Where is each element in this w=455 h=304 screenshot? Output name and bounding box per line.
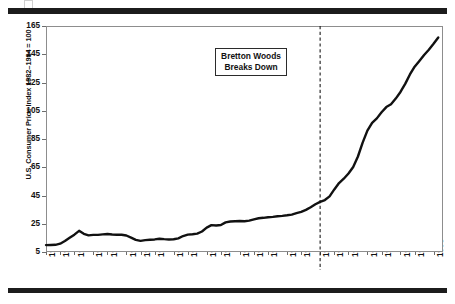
bretton-woods-annotation-box: Bretton Woods Breaks Down xyxy=(215,48,287,76)
annotation-line-1: Bretton Woods xyxy=(221,51,281,62)
top-rule-bar xyxy=(8,8,447,14)
bottom-rule-bar xyxy=(8,288,447,293)
figure-page: U.S. Consumer Price Index 1982–1984 = 10… xyxy=(0,0,455,304)
annotation-line-2: Breaks Down xyxy=(221,62,281,73)
chart-container: U.S. Consumer Price Index 1982–1984 = 10… xyxy=(0,18,455,284)
